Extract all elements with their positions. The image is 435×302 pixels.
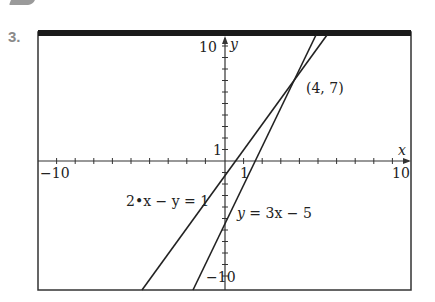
intersection-label: (4, 7): [306, 80, 344, 96]
x-tick-label-neg10: −10: [40, 165, 70, 181]
equation-label-2: y = 3x − 5: [236, 205, 312, 221]
y-axis-label: y: [229, 36, 239, 52]
x-tick-label-10: 10: [392, 165, 410, 181]
top-bar: [38, 30, 411, 36]
y-tick-label-neg10: −10: [206, 269, 236, 285]
equation-label-1: 2•x − y = 1: [126, 193, 209, 209]
equation-2-rest: = 3x − 5: [245, 205, 312, 221]
graph: 10 y 1 −10 x −10 1 10 (4, 7) 2•x − y = 1…: [0, 0, 435, 302]
y-tick-label-1: 1: [213, 142, 222, 158]
x-tick-label-1: 1: [240, 165, 249, 181]
x-axis-label: x: [398, 142, 406, 158]
y-tick-label-10: 10: [199, 39, 217, 55]
